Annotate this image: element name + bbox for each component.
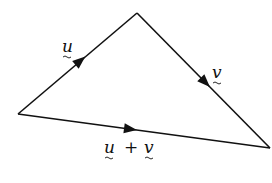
tilde-u: [63, 56, 71, 58]
tilde-sum-v: [145, 157, 153, 159]
vector-triangle-diagram: u v u + v: [0, 0, 272, 183]
label-u: u: [62, 36, 73, 56]
label-sum-plus: +: [124, 137, 138, 157]
label-sum-u: u: [104, 137, 115, 157]
label-v: v: [212, 62, 222, 82]
tilde-sum-u: [105, 157, 113, 159]
label-sum-v: v: [144, 137, 154, 157]
tilde-v: [213, 82, 221, 84]
